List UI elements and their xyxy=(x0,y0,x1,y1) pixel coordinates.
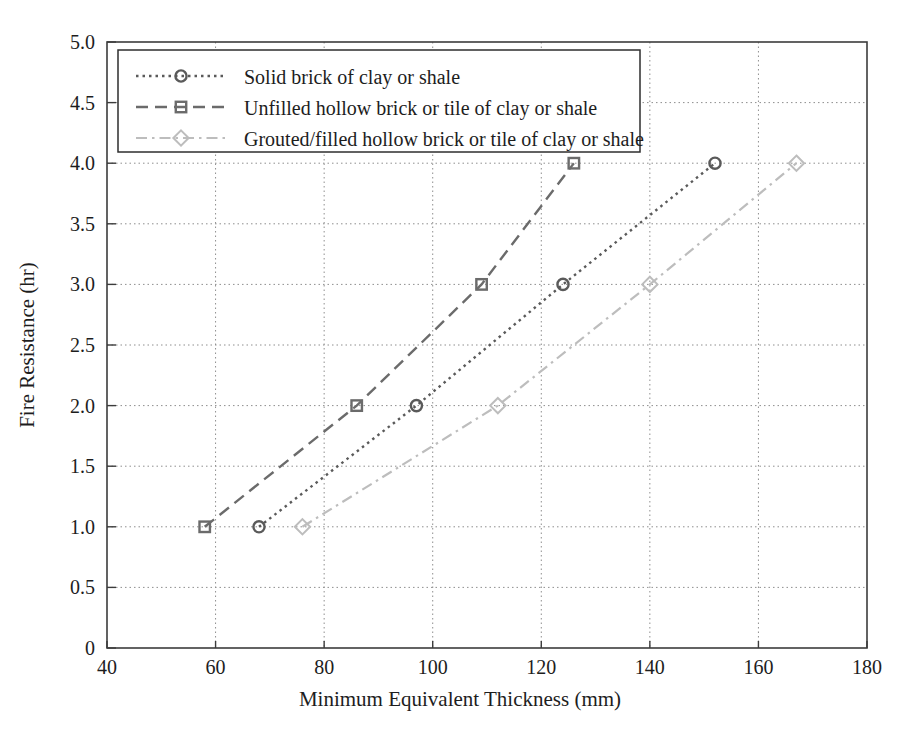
x-tick-label: 100 xyxy=(418,656,448,678)
x-axis-title: Minimum Equivalent Thickness (mm) xyxy=(299,687,621,711)
y-tick-label: 1.5 xyxy=(70,455,95,477)
y-tick-label: 1.0 xyxy=(70,516,95,538)
y-tick-label: 5.0 xyxy=(70,31,95,53)
x-tick-label: 140 xyxy=(635,656,665,678)
x-tick-label: 60 xyxy=(206,656,226,678)
y-tick-label: 3.0 xyxy=(70,273,95,295)
x-tick-label: 160 xyxy=(743,656,773,678)
legend-label: Unfilled hollow brick or tile of clay or… xyxy=(244,97,597,120)
y-tick-label: 0.5 xyxy=(70,576,95,598)
y-tick-label: 4.0 xyxy=(70,152,95,174)
legend-label: Grouted/filled hollow brick or tile of c… xyxy=(244,128,644,151)
y-tick-label: 2.5 xyxy=(70,334,95,356)
x-tick-label: 180 xyxy=(852,656,882,678)
y-tick-label: 3.5 xyxy=(70,213,95,235)
x-tick-label: 80 xyxy=(314,656,334,678)
y-axis-title: Fire Resistance (hr) xyxy=(15,262,39,428)
y-tick-label: 4.5 xyxy=(70,92,95,114)
y-tick-label: 0 xyxy=(85,637,95,659)
x-tick-label: 120 xyxy=(526,656,556,678)
chart-legend: Solid brick of clay or shaleUnfilled hol… xyxy=(118,50,644,152)
legend-label: Solid brick of clay or shale xyxy=(244,66,460,89)
x-tick-label: 40 xyxy=(97,656,117,678)
fire-resistance-line-chart: 40608010012014016018000.51.01.52.02.53.0… xyxy=(0,0,921,741)
chart-figure: 40608010012014016018000.51.01.52.02.53.0… xyxy=(0,0,921,741)
y-tick-label: 2.0 xyxy=(70,395,95,417)
